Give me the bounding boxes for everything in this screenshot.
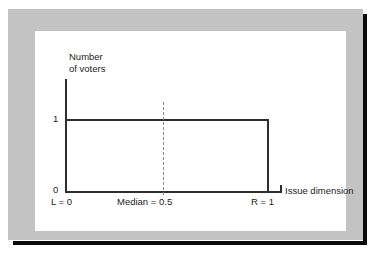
figure-frame: Number of voters 1 0 L = 0 Median = 0.5 … [8, 9, 363, 240]
y-axis-title-line2: of voters [69, 63, 105, 75]
frame-shadow-bottom [13, 241, 367, 245]
distribution-top-line [65, 119, 268, 121]
chart-canvas: Number of voters 1 0 L = 0 Median = 0.5 … [35, 31, 346, 231]
x-tick-label-right: R = 1 [251, 196, 274, 208]
y-axis-title-line1: Number [69, 51, 105, 63]
x-axis-title: Issue dimension [285, 185, 354, 197]
x-axis-line [65, 191, 280, 193]
x-axis-end-tick [280, 185, 282, 193]
y-axis-line [65, 79, 67, 192]
y-tick-label-1: 1 [53, 113, 58, 125]
distribution-right-edge [267, 119, 269, 192]
median-dashed-line [163, 102, 164, 195]
y-tick-label-0: 0 [53, 184, 58, 196]
x-tick-label-left: L = 0 [51, 196, 72, 208]
x-tick-label-median: Median = 0.5 [117, 196, 172, 208]
frame-shadow-right [363, 14, 367, 245]
y-axis-title: Number of voters [69, 51, 105, 74]
